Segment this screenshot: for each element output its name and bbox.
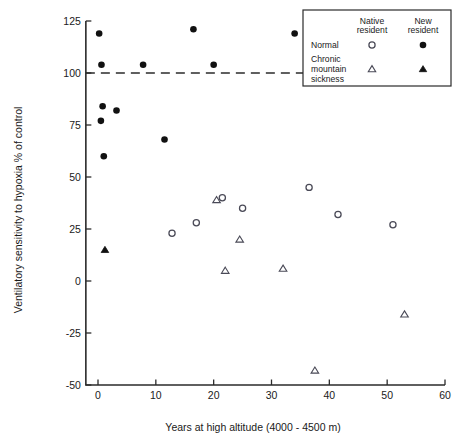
point-filled-circle: [98, 118, 105, 125]
legend-col-native-line2: resident: [357, 25, 388, 35]
legend-marker-normal-native: [369, 42, 375, 48]
y-tick-label: -25: [66, 327, 81, 339]
point-open-circle: [390, 222, 396, 228]
series-0: [96, 26, 298, 159]
point-open-triangle: [279, 265, 287, 271]
series-1: [169, 184, 396, 236]
point-filled-circle: [113, 107, 120, 114]
point-open-circle: [219, 195, 225, 201]
y-tick-label: -50: [66, 379, 81, 391]
point-open-circle: [335, 211, 341, 217]
point-filled-triangle: [101, 246, 109, 252]
point-open-triangle: [401, 311, 409, 317]
point-open-triangle: [221, 267, 229, 273]
point-filled-circle: [100, 153, 107, 160]
point-filled-circle: [96, 30, 103, 37]
y-tick-label: 75: [69, 119, 81, 131]
point-filled-circle: [210, 61, 217, 68]
point-open-triangle: [236, 236, 244, 242]
point-filled-circle: [161, 136, 168, 143]
y-tick-label: 100: [63, 67, 81, 79]
y-tick-label: 0: [75, 275, 81, 287]
legend-row-cms-label-line2: mountain: [311, 64, 347, 74]
point-open-circle: [306, 184, 312, 190]
y-tick-label: 125: [63, 15, 81, 27]
x-tick-label: 40: [323, 389, 335, 401]
y-tick-label: 50: [69, 171, 81, 183]
x-axis-title: Years at high altitude (4000 - 4500 m): [165, 421, 340, 433]
point-open-circle: [239, 205, 245, 211]
point-open-circle: [193, 220, 199, 226]
series-2: [101, 246, 109, 252]
point-filled-circle: [140, 61, 147, 68]
legend-marker-normal-new: [420, 42, 427, 49]
point-filled-circle: [99, 103, 106, 110]
legend-row-cms-label-line3: sickness: [311, 74, 344, 84]
chart-canvas: 0102030405060-50-250255075100125 Nativer…: [0, 0, 456, 448]
point-open-triangle: [311, 367, 319, 373]
point-open-circle: [169, 230, 175, 236]
legend-row-normal-label: Normal: [311, 40, 339, 50]
y-axis-title: Ventilatory sensitivity to hypoxia % of …: [12, 107, 24, 314]
y-tick-label: 25: [69, 223, 81, 235]
axis-titles-layer: Years at high altitude (4000 - 4500 m) V…: [12, 107, 341, 433]
series-3: [213, 196, 409, 373]
scatter-chart-figure: 0102030405060-50-250255075100125 Nativer…: [0, 0, 456, 448]
chart-legend: NativeresidentNewresidentNormalChronicmo…: [303, 10, 451, 86]
point-filled-circle: [98, 61, 105, 68]
x-tick-label: 50: [381, 389, 393, 401]
x-tick-label: 20: [208, 389, 220, 401]
point-filled-circle: [190, 26, 197, 33]
x-tick-label: 60: [439, 389, 451, 401]
legend-row-cms-label-line1: Chronic: [311, 54, 341, 64]
x-tick-label: 30: [266, 389, 278, 401]
legend-col-new-line2: resident: [408, 25, 439, 35]
x-tick-label: 0: [95, 389, 101, 401]
point-filled-circle: [291, 30, 298, 37]
x-tick-label: 10: [150, 389, 162, 401]
